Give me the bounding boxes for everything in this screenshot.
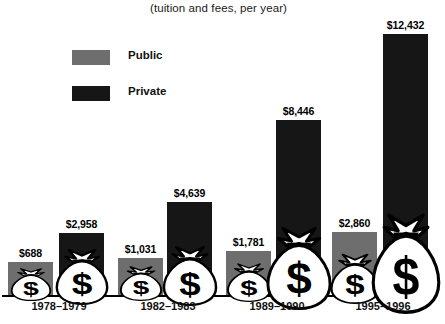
money-bag-icon: $ xyxy=(52,247,112,305)
bar-value-label: $8,446 xyxy=(283,105,315,117)
money-bag-icon: $ xyxy=(262,224,336,310)
svg-text:$: $ xyxy=(23,279,39,298)
bar-value-label: $688 xyxy=(19,247,42,259)
svg-text:$: $ xyxy=(71,267,92,301)
category-label: 1995–1996 xyxy=(355,300,410,312)
category-label: 1989–1990 xyxy=(249,300,304,312)
svg-text:$: $ xyxy=(392,247,419,307)
svg-text:$: $ xyxy=(286,254,312,304)
money-bag-icon: $ xyxy=(8,267,54,301)
bar-value-label: $1,031 xyxy=(125,243,157,255)
bar-value-label: $4,639 xyxy=(174,187,206,199)
svg-text:$: $ xyxy=(345,270,364,300)
bar-value-label: $12,432 xyxy=(387,19,424,31)
bar-value-label: $1,781 xyxy=(233,236,265,248)
svg-text:$: $ xyxy=(132,278,149,298)
money-bag-icon: $ xyxy=(117,265,165,301)
category-label: 1978–1979 xyxy=(31,300,86,312)
svg-text:$: $ xyxy=(179,266,201,301)
money-bag-icon: $ xyxy=(367,210,445,314)
svg-text:$: $ xyxy=(240,276,258,300)
money-bag-icon: $ xyxy=(159,244,221,306)
bar-value-label: $2,958 xyxy=(66,218,98,230)
category-label: 1982–1983 xyxy=(140,300,195,312)
